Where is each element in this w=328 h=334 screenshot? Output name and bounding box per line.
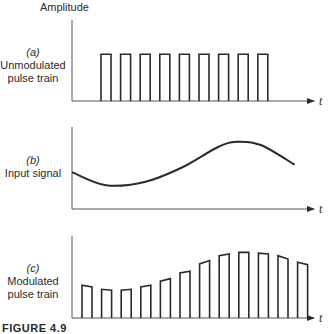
modulated-pulse [180,271,190,318]
modulated-pulse [258,253,268,318]
input-signal-curve [72,142,295,186]
panel-a-pulses [101,54,268,101]
panel-b: t [72,127,323,216]
pulse [258,54,268,101]
pulse [101,54,111,101]
panel-c: t [72,236,323,325]
modulated-pulse [82,285,92,318]
modulated-pulse [160,279,170,318]
modulated-pulse [298,262,308,318]
pulse [121,54,131,101]
pulse [140,54,150,101]
panel-a: t [72,20,323,108]
pulse [160,54,170,101]
modulated-pulse [121,289,131,318]
modulated-pulse [102,289,112,318]
panel-c-pulses [82,252,308,318]
modulated-pulse [219,254,229,318]
panel-b-t-label: t [319,202,323,216]
pulse [199,54,209,101]
modulated-pulse [141,285,151,318]
panel-a-t-label: t [319,94,323,108]
pulse [179,54,189,101]
panel-c-t-label: t [319,311,323,325]
modulated-pulse [200,261,210,318]
pulse [238,54,248,101]
modulated-pulse [278,256,288,318]
pulse [219,54,229,101]
modulated-pulse [239,252,249,318]
